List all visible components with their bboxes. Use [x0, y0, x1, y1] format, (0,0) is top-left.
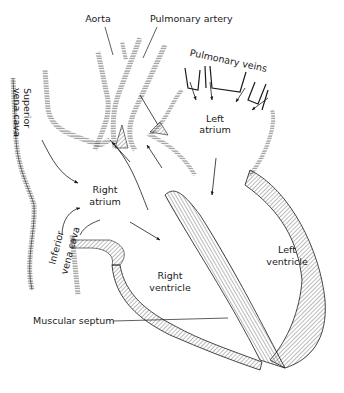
label-left-atrium-2: atrium [199, 124, 230, 135]
label-left-atrium-1: Left [206, 113, 224, 124]
great-arteries [95, 38, 168, 150]
label-right-ventricle-2: ventricle [149, 282, 191, 293]
label-left-ventricle-1: Left [278, 244, 296, 255]
pulmonary-veins [185, 66, 268, 110]
label-right-atrium-1: Right [92, 184, 117, 195]
label-left-ventricle-2: ventricle [266, 256, 308, 267]
label-right-atrium-2: atrium [89, 196, 120, 207]
label-pulmonary-veins: Pulmonary veins [189, 47, 268, 74]
label-aorta: Aorta [85, 13, 111, 24]
heart-diagram: Aorta Pulmonary artery Pulmonary veins S… [0, 0, 344, 393]
label-right-ventricle-1: Right [157, 270, 182, 281]
label-muscular-septum: Muscular septum [33, 315, 115, 326]
label-pulmonary-artery: Pulmonary artery [150, 13, 233, 24]
label-superior-vena-cava-2: vena cava [12, 88, 23, 137]
heart-illustration: Aorta Pulmonary artery Pulmonary veins S… [0, 0, 344, 393]
